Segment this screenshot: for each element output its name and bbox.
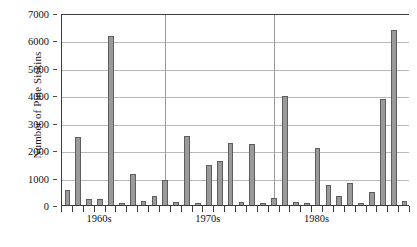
y-tick-mark [53,124,57,125]
x-tick-mark [344,206,345,212]
bars-container [62,15,409,206]
y-tick-label-6000: 6000 [28,36,49,47]
x-tick-mark [246,206,247,212]
y-tick-label-4000: 4000 [28,91,49,102]
y-tick-mark [53,179,57,180]
x-tick-mark [289,206,290,212]
x-tick-mark [202,206,203,212]
x-tick-mark [235,206,236,212]
x-tick-mark [279,206,280,212]
x-tick-mark [72,206,73,212]
x-tick-mark [387,206,388,212]
x-tick-mark [268,206,269,212]
bar [380,99,386,206]
bar [369,192,375,206]
y-tick-label-7000: 7000 [28,9,49,20]
y-axis-tick-labels: 01000200030004000500060007000 [0,0,57,247]
x-tick-mark [61,206,62,212]
x-axis-tick-marks [61,206,409,213]
plot-area [61,14,409,206]
bar [217,161,223,206]
x-tick-mark [181,206,182,212]
y-tick-label-3000: 3000 [28,118,49,129]
pine-siskins-bar-chart: Number of Pine Siskins 01000200030004000… [0,0,417,247]
x-tick-mark [148,206,149,212]
bar [326,185,332,206]
y-tick-label-2000: 2000 [28,146,49,157]
y-tick-label-5000: 5000 [28,63,49,74]
x-axis-decade-labels: 1960s1970s1980s [61,213,409,233]
x-tick-mark [83,206,84,212]
x-tick-mark [398,206,399,212]
bar [65,190,71,206]
bar [130,174,136,206]
bar [282,96,288,206]
y-tick-label-0: 0 [44,201,49,212]
x-tick-mark [126,206,127,212]
x-decade-label-1970s: 1970s [195,213,220,224]
y-tick-mark [53,151,57,152]
y-tick-mark [53,14,57,15]
x-tick-mark [170,206,171,212]
x-tick-mark [94,206,95,212]
y-tick-mark [53,69,57,70]
x-tick-mark [355,206,356,212]
bar [391,30,397,206]
y-tick-mark [53,41,57,42]
x-tick-mark [159,206,160,212]
x-tick-mark [105,206,106,212]
x-tick-mark [224,206,225,212]
x-decade-label-1980s: 1980s [304,213,329,224]
x-tick-mark [115,206,116,212]
bar [249,144,255,206]
x-tick-mark [409,206,410,212]
x-tick-mark [333,206,334,212]
x-tick-mark [300,206,301,212]
bar [162,180,168,206]
x-tick-mark [376,206,377,212]
bar [108,36,114,206]
x-tick-mark [213,206,214,212]
x-tick-mark [192,206,193,212]
y-tick-label-1000: 1000 [28,173,49,184]
bar [75,137,81,206]
x-tick-mark [311,206,312,212]
x-tick-mark [366,206,367,212]
y-tick-mark [53,206,57,207]
x-tick-mark [257,206,258,212]
bar [315,148,321,206]
bar [206,165,212,206]
bar [347,183,353,206]
x-tick-mark [322,206,323,212]
y-tick-mark [53,96,57,97]
bar [184,136,190,206]
bar [228,143,234,206]
x-tick-mark [137,206,138,212]
x-decade-label-1960s: 1960s [87,213,112,224]
